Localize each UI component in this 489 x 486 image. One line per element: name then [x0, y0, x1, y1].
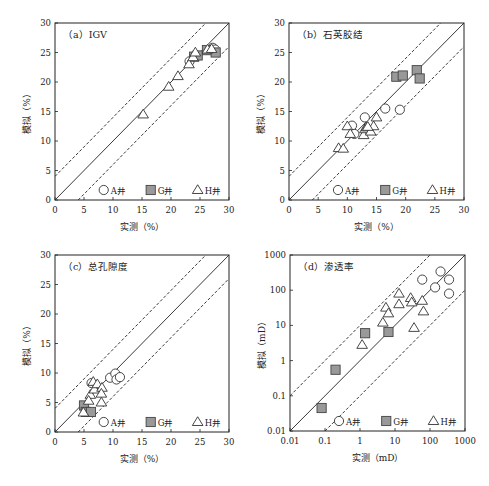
marker-triangle-icon	[163, 81, 174, 90]
x-tick-label: 5	[315, 205, 320, 215]
legend-item-h: H井	[427, 185, 456, 196]
legend-item-g: G井	[146, 185, 173, 195]
x-tick-label: 25	[429, 205, 440, 215]
x-tick-label: 20	[166, 437, 177, 447]
legend-label: H井	[205, 186, 221, 196]
marker-triangle-icon	[417, 296, 428, 305]
marker-square-icon	[317, 403, 326, 412]
y-tick-label: 15	[274, 107, 285, 117]
y-axis-label: 模拟（%）	[21, 89, 32, 134]
reference-lines	[290, 255, 465, 431]
x-tick-label: 0	[52, 437, 57, 447]
marker-circle-icon	[99, 417, 108, 426]
y-tick-label: 25	[274, 48, 285, 58]
data-points	[138, 43, 220, 118]
series-g	[392, 66, 425, 83]
panel-title: （d）渗透率	[298, 261, 354, 272]
x-tick-label: 0	[286, 205, 291, 215]
x-tick-label: 15	[137, 205, 148, 215]
x-tick-label: 20	[166, 205, 177, 215]
x-tick-label: 5	[81, 437, 86, 447]
legend-label: G井	[392, 186, 408, 196]
y-axis-label: 模拟（%）	[255, 89, 266, 134]
marker-triangle-icon	[357, 340, 368, 349]
marker-square-icon	[415, 74, 424, 83]
y-tick-label: 25	[40, 48, 51, 58]
upper-bound-line	[55, 23, 206, 176]
panel-a-igv: 051015202530051015202530（a）IGVA井G井H井实测（%…	[21, 18, 234, 232]
x-tick-label: 30	[459, 205, 470, 215]
y-tick-label: 0.1	[272, 391, 286, 401]
marker-circle-icon	[333, 185, 342, 194]
x-tick-label: 10	[108, 205, 119, 215]
panel-title: （c）总孔隙度	[63, 261, 128, 272]
y-tick-label: 20	[40, 309, 51, 319]
legend-label: H井	[205, 418, 221, 428]
x-tick-label: 1	[357, 436, 362, 446]
y-tick-label: 15	[40, 107, 51, 117]
legend: A井G井H井	[99, 417, 221, 428]
upper-bound-line	[55, 255, 206, 408]
y-tick-label: 10	[274, 136, 285, 146]
legend-label: G井	[158, 418, 174, 428]
marker-triangle-icon	[192, 417, 203, 426]
panel-title: （a）IGV	[63, 29, 107, 40]
legend-item-a: A井	[333, 185, 360, 195]
marker-triangle-icon	[394, 299, 405, 308]
series-g	[317, 327, 393, 412]
legend: A井G井H井	[334, 416, 457, 427]
x-tick-label: 10	[390, 436, 401, 446]
x-tick-label: 0	[52, 205, 57, 215]
x-tick-label: 15	[371, 205, 382, 215]
legend-item-h: H井	[192, 417, 221, 428]
y-tick-label: 5	[46, 166, 51, 176]
x-axis-label: 实测（%）	[354, 221, 399, 232]
x-tick-label: 0.01	[281, 436, 300, 446]
x-axis-label: 实测（%）	[120, 453, 165, 464]
y-tick-label: 20	[274, 77, 285, 87]
marker-triangle-icon	[173, 71, 184, 80]
x-axis-label: 实测（%）	[120, 221, 165, 232]
marker-square-icon	[384, 327, 393, 336]
marker-circle-icon	[395, 105, 404, 114]
marker-square-icon	[398, 71, 407, 80]
marker-circle-icon	[444, 275, 453, 284]
y-tick-label: 25	[40, 280, 51, 290]
lower-bound-line	[78, 47, 229, 200]
marker-circle-icon	[436, 267, 445, 276]
marker-square-icon	[331, 365, 340, 374]
x-tick-label: 1000	[454, 436, 476, 446]
marker-circle-icon	[360, 113, 369, 122]
marker-square-icon	[146, 417, 155, 426]
marker-circle-icon	[418, 275, 427, 284]
y-tick-label: 1	[281, 356, 286, 366]
x-tick-label: 25	[195, 437, 206, 447]
marker-triangle-icon	[378, 317, 389, 326]
y-tick-label: 0.01	[267, 426, 286, 436]
lower-bound-line	[325, 290, 465, 431]
legend: A井G井H井	[99, 185, 221, 196]
marker-square-icon	[361, 329, 370, 338]
y-tick-label: 15	[40, 339, 51, 349]
marker-circle-icon	[99, 185, 108, 194]
marker-circle-icon	[334, 416, 343, 425]
data-points	[317, 267, 454, 413]
legend-item-a: A井	[99, 185, 126, 195]
y-tick-label: 0	[280, 195, 285, 205]
y-axis-label: 模拟（mD）	[256, 317, 267, 369]
data-points	[78, 369, 124, 417]
y-tick-label: 100	[270, 285, 286, 295]
y-tick-label: 30	[40, 250, 51, 260]
legend-label: A井	[110, 186, 126, 196]
x-tick-label: 25	[195, 205, 206, 215]
x-tick-label: 5	[81, 205, 86, 215]
x-tick-label: 100	[422, 436, 438, 446]
x-tick-label: 10	[342, 205, 353, 215]
x-axis-label: 实测（mD）	[352, 452, 404, 463]
legend: A井G井H井	[333, 185, 456, 196]
legend-label: G井	[393, 417, 409, 427]
x-tick-label: 15	[137, 437, 148, 447]
marker-triangle-icon	[428, 416, 439, 425]
y-tick-label: 5	[46, 398, 51, 408]
marker-circle-icon	[115, 373, 124, 382]
